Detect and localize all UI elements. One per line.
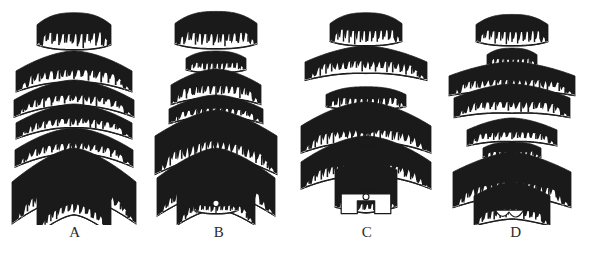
panel-d: D [442, 0, 590, 257]
panel-a-artwork [0, 0, 150, 225]
figure-illustration: A B C D [0, 0, 590, 257]
panel-b-artwork [146, 0, 292, 225]
panel-a-label: A [0, 224, 150, 241]
panel-c: C [296, 0, 438, 257]
panel-c-artwork [296, 0, 438, 225]
panel-a-element-1 [37, 13, 111, 54]
panel-c-element-1 [330, 13, 402, 51]
panel-b-element-8 [194, 190, 238, 215]
panel-c-element-2 [305, 46, 427, 88]
panel-b: B [146, 0, 292, 257]
panel-b-label: B [146, 224, 292, 241]
panel-d-element-1 [476, 14, 548, 50]
panel-c-label: C [296, 224, 438, 241]
panel-b-element-1 [175, 11, 257, 53]
panel-a: A [0, 0, 150, 257]
panel-d-label: D [442, 224, 590, 241]
panel-d-artwork [442, 0, 590, 225]
